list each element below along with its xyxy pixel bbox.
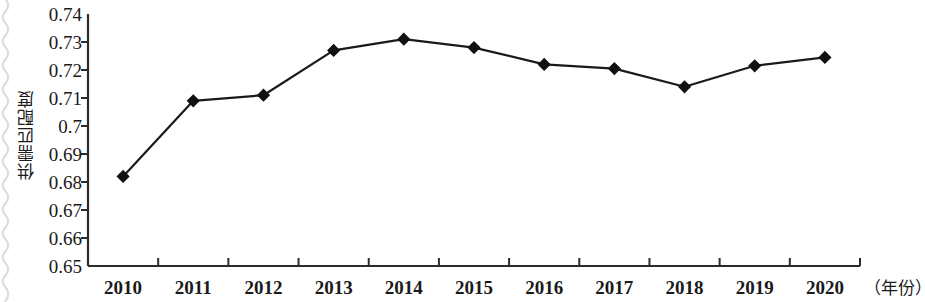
x-axis-tick-label: 2011 <box>175 278 212 297</box>
x-axis-tick-label: 2018 <box>666 278 704 297</box>
x-axis-unit-label: （年份） <box>864 280 925 297</box>
x-axis-tick-label: 2015 <box>455 278 493 297</box>
x-axis-tick-label: 2013 <box>315 278 353 297</box>
x-axis-tick-label: 2017 <box>595 278 633 297</box>
x-axis-tick-label: 2020 <box>806 278 844 297</box>
x-axis-tick-label: 2016 <box>525 278 563 297</box>
x-axis-tick-label: 2012 <box>244 278 282 297</box>
x-axis-tick-label: 2014 <box>385 278 423 297</box>
x-axis-tick-label: 2019 <box>736 278 774 297</box>
x-axis-tick-label: 2010 <box>104 278 142 297</box>
